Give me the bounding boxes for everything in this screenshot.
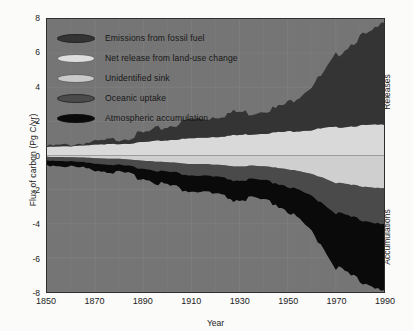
chart-legend: Emissions from fossil fuelNet release fr… — [57, 28, 287, 128]
x-tick-label: 1970 — [327, 296, 347, 306]
y-tick-label: 2 — [22, 116, 40, 126]
carbon-flux-figure: Flux of carbon (Pg C/yr) 86420-2-4-6-8 1… — [0, 0, 413, 331]
legend-item-label: Unidentified sink — [105, 73, 170, 83]
x-tick-label: 1890 — [133, 296, 153, 306]
x-axis-title: Year — [46, 318, 385, 328]
legend-item: Net release from land-use change — [57, 48, 287, 68]
legend-item-label: Emissions from fossil fuel — [105, 33, 205, 43]
legend-item: Atmospheric accumulation — [57, 108, 287, 128]
y-tick-label: 6 — [22, 47, 40, 57]
y-tick-label: 0 — [22, 151, 40, 161]
legend-item-label: Net release from land-use change — [105, 53, 238, 63]
y-tick-label: 4 — [22, 82, 40, 92]
legend-item: Oceanic uptake — [57, 88, 287, 108]
legend-item: Emissions from fossil fuel — [57, 28, 287, 48]
y-tick-label: -2 — [22, 185, 40, 195]
x-tick-label: 1930 — [230, 296, 250, 306]
y-tick-label: -6 — [22, 254, 40, 264]
legend-swatch-oceanic-uptake — [57, 94, 95, 103]
x-tick-label: 1950 — [278, 296, 298, 306]
y-tick-label: -4 — [22, 219, 40, 229]
x-tick-label: 1850 — [36, 296, 56, 306]
y-axis-tick-labels: 86420-2-4-6-8 — [22, 0, 40, 331]
x-tick-label: 1990 — [375, 296, 395, 306]
x-tick-label: 1910 — [181, 296, 201, 306]
plot-area: Emissions from fossil fuelNet release fr… — [46, 18, 385, 293]
legend-item-label: Atmospheric accumulation — [105, 113, 208, 123]
legend-item: Unidentified sink — [57, 68, 287, 88]
legend-item-label: Oceanic uptake — [105, 93, 166, 103]
legend-swatch-atmospheric-accumulation — [57, 114, 95, 123]
x-tick-label: 1870 — [84, 296, 104, 306]
legend-swatch-unidentified-sink — [57, 74, 95, 83]
y-tick-label: 8 — [22, 13, 40, 23]
legend-swatch-emissions-fossil-fuel — [57, 34, 95, 43]
legend-swatch-net-release-land-use — [57, 54, 95, 63]
